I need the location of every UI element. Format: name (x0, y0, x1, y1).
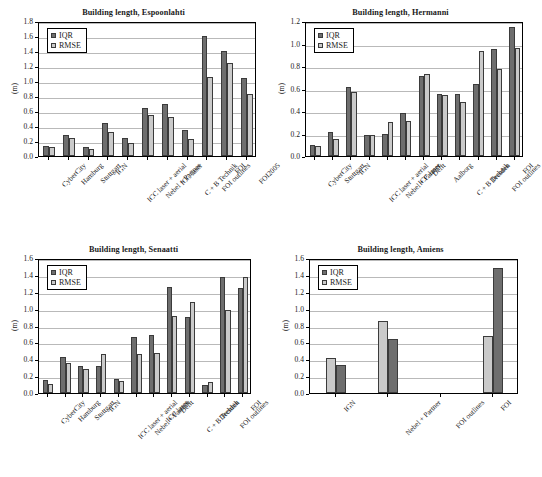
legend-building-length-hermanni: IQRRMSE (314, 28, 354, 53)
chart-panel-senaatti: Building length, Senaatti(m)0.00.20.40.6… (0, 237, 267, 477)
legend-label-iqr: IQR (59, 31, 73, 40)
x-tick-mark (440, 394, 441, 397)
bar-rmse-nebel-partner (137, 354, 142, 393)
y-tick-mark (35, 97, 38, 98)
bar-rmse-icc-laser-aerial (119, 381, 124, 393)
bar-group-foi (217, 23, 237, 156)
x-axis-label-dresden: Dresden (488, 161, 512, 185)
x-axis-label-ign: IGN (342, 398, 358, 414)
x-tick-mark (47, 394, 48, 397)
x-tick-mark (246, 157, 247, 160)
y-tick-label: 1.2 (273, 17, 300, 26)
bar-rmse-c-b-technik (188, 139, 194, 156)
x-tick-mark (207, 394, 208, 397)
y-tick-mark (302, 157, 305, 158)
x-tick-mark (65, 394, 66, 397)
y-tick-label: 1.6 (6, 32, 33, 41)
legend-label-rmse: RMSE (330, 278, 352, 287)
x-tick-mark (118, 394, 119, 397)
y-tick-label: 1.8 (6, 17, 33, 26)
bar-rmse-icc-laser (406, 121, 411, 156)
x-tick-mark (314, 157, 315, 160)
y-tick-label: 0.2 (6, 137, 33, 146)
legend-item-rmse: RMSE (51, 41, 81, 50)
x-tick-mark (127, 157, 128, 160)
y-tick-label: 1.0 (6, 77, 33, 86)
bar-rmse-foi2005 (247, 94, 253, 156)
bar-rmse-c-b-technik (190, 302, 195, 393)
bar-rmse-foi (483, 336, 493, 393)
y-tick-label: 0.2 (277, 372, 304, 381)
y-tick-label: 0.8 (277, 322, 304, 331)
chart-title-senaatti: Building length, Senaatti (0, 245, 267, 254)
x-tick-mark (107, 157, 108, 160)
y-tick-label: 0.8 (273, 62, 300, 71)
x-tick-mark (48, 157, 49, 160)
legend-item-iqr: IQR (51, 268, 81, 277)
x-tick-mark (187, 157, 188, 160)
bar-group-ign (98, 23, 118, 156)
y-tick-label: 0.4 (273, 107, 300, 116)
legend-swatch-rmse-icon (51, 43, 56, 48)
bar-rmse-icc-laser-aerial (370, 135, 375, 156)
y-tick-mark (302, 112, 305, 113)
bar-group-aalborg (433, 23, 451, 156)
x-axis-label-foi: FOI (498, 398, 513, 413)
y-tick-mark (306, 327, 309, 328)
legend-building-length-senaatti: IQRRMSE (47, 265, 87, 290)
legend-label-iqr: IQR (326, 31, 340, 40)
bar-rmse-foi (515, 48, 520, 156)
bar-rmse-c-b-technik (460, 102, 465, 156)
bar-group-delft (415, 23, 433, 156)
x-tick-mark (514, 157, 515, 160)
bar-group-foi2005 (237, 23, 257, 156)
legend-item-iqr: IQR (322, 268, 352, 277)
y-tick-mark (35, 37, 38, 38)
bar-group-foi-outlines (217, 260, 235, 393)
legend-swatch-iqr-icon (51, 33, 56, 38)
bar-group-c-b-technik (181, 260, 199, 393)
bar-rmse-foi (227, 63, 233, 156)
x-tick-mark (88, 157, 89, 160)
y-tick-label: 1.4 (277, 271, 304, 280)
bar-group-foi (234, 260, 252, 393)
bar-rmse-icc-laser (154, 353, 159, 393)
chart-title-amiens: Building length, Amiens (267, 245, 534, 254)
bar-group-nebel-partner (138, 23, 158, 156)
bar-group-nebel-partner (379, 23, 397, 156)
y-tick-mark (35, 142, 38, 143)
y-tick-mark (306, 360, 309, 361)
y-tick-label: 0.6 (6, 107, 33, 116)
y-tick-mark (35, 127, 38, 128)
bar-group-c-b-technik (178, 23, 198, 156)
legend-swatch-rmse-icon (322, 280, 327, 285)
y-tick-mark (306, 293, 309, 294)
y-tick-mark (302, 22, 305, 23)
bar-rmse-nebel-partner (148, 115, 154, 156)
bar-group-foi (506, 23, 524, 156)
x-tick-mark (242, 394, 243, 397)
y-tick-mark (306, 394, 309, 395)
y-tick-mark (306, 310, 309, 311)
bar-group-dresden (470, 23, 488, 156)
y-tick-mark (35, 360, 38, 361)
y-tick-mark (35, 293, 38, 294)
chart-title-hermanni: Building length, Hermanni (267, 8, 534, 17)
bar-rmse-icc-laser-aerial (128, 143, 134, 156)
y-tick-label: 0.6 (277, 338, 304, 347)
y-tick-label: 1.4 (6, 271, 33, 280)
x-tick-mark (387, 157, 388, 160)
bar-rmse-cybercity (315, 146, 320, 156)
bar-rmse-foi-outlines (225, 310, 230, 393)
x-tick-mark (369, 157, 370, 160)
legend-label-iqr: IQR (330, 268, 344, 277)
y-tick-mark (35, 377, 38, 378)
y-tick-label: 0.0 (277, 389, 304, 398)
bar-rmse-stuttgart (333, 139, 338, 156)
x-tick-mark (68, 157, 69, 160)
bar-group-icc-laser (146, 260, 164, 393)
legend-item-rmse: RMSE (51, 278, 81, 287)
legend-swatch-rmse-icon (318, 43, 323, 48)
y-tick-mark (302, 67, 305, 68)
